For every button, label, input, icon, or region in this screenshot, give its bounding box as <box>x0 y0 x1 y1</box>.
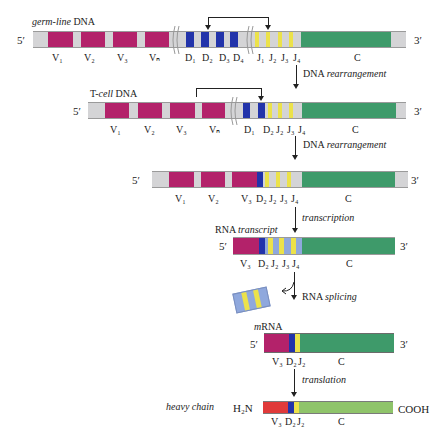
heavy-chain-bar <box>263 401 393 414</box>
step2-caption: DNA rearrangement <box>303 139 386 150</box>
label-v3: V₃ <box>240 258 251 269</box>
label-j4: J₄ <box>292 258 299 269</box>
j3-segment <box>276 172 280 187</box>
arrow-head-icon <box>292 228 298 233</box>
label-j3: J₃ <box>282 258 289 269</box>
c-segment <box>302 172 395 187</box>
arrow-head-icon <box>291 392 297 397</box>
label-j3: J₃ <box>281 52 288 63</box>
vn-segment <box>202 103 225 118</box>
arrow-head-icon <box>265 25 271 30</box>
v3-segment <box>263 402 288 413</box>
d4-segment <box>230 32 238 47</box>
label-d2: D₂ <box>263 124 274 135</box>
rearranged-5prime: 5′ <box>132 174 140 186</box>
d2-segment <box>257 172 263 187</box>
label-v3: V₃ <box>271 416 282 427</box>
label-c: C <box>338 356 345 367</box>
label-j4: J₄ <box>298 124 305 135</box>
arrow-head-icon <box>205 25 211 30</box>
label-j3: J₃ <box>287 124 294 135</box>
j2-segment <box>268 238 273 254</box>
label-v2: V₂ <box>84 52 95 63</box>
j3-segment <box>278 32 282 47</box>
label-c: C <box>346 258 353 269</box>
label-j4: J₄ <box>291 193 298 204</box>
label-j4: J₄ <box>293 52 300 63</box>
v1-segment <box>169 172 194 187</box>
step5-caption: translation <box>302 374 346 385</box>
step1-caption: DNA rearrangement <box>303 68 386 79</box>
c-segment <box>300 334 394 352</box>
excised-intron-fragment <box>232 287 270 314</box>
protein-n-terminus: H₂N <box>233 402 253 414</box>
j4-segment <box>289 103 293 118</box>
label-j2: J₂ <box>269 52 276 63</box>
c-segment <box>302 238 395 254</box>
recombination-bracket <box>196 88 261 89</box>
step4-caption: RNA splicing <box>302 291 357 302</box>
germline-5prime: 5′ <box>17 34 25 46</box>
step2-arrow <box>295 136 296 156</box>
mrna-3prime: 3′ <box>400 338 408 350</box>
j2-segment <box>266 32 270 47</box>
label-d1: D₁ <box>185 52 196 63</box>
label-d2: D₂ <box>286 356 297 367</box>
arrow-head-icon <box>293 84 299 89</box>
j4-segment <box>253 289 262 308</box>
label-v3: V₃ <box>176 124 187 135</box>
label-vn: Vₙ <box>149 52 160 63</box>
j4-segment <box>291 238 296 254</box>
label-v2: V₂ <box>144 124 155 135</box>
label-c: C <box>345 193 352 204</box>
c-segment <box>301 32 391 47</box>
protein-c-terminus: COOH <box>398 403 429 415</box>
recombination-bracket <box>208 17 268 18</box>
rna-5prime: 5′ <box>219 240 227 252</box>
label-j2: J₂ <box>298 356 305 367</box>
germline-dna-bar <box>33 31 406 48</box>
vn-segment <box>145 32 169 47</box>
label-v1: V₁ <box>110 124 121 135</box>
j3-segment <box>241 292 250 311</box>
label-vn: Vₙ <box>209 124 220 135</box>
mrna-5prime: 5′ <box>250 338 258 350</box>
tcell-3prime: 3′ <box>414 105 422 117</box>
label-v3: V₃ <box>117 52 128 63</box>
rearranged-3prime: 3′ <box>411 174 419 186</box>
mrna-title: mRNA <box>254 321 282 332</box>
j4-segment <box>287 172 291 187</box>
label-d2: D₂ <box>285 416 296 427</box>
c-segment <box>299 402 393 413</box>
label-c: C <box>352 124 359 135</box>
v2-segment <box>138 103 162 118</box>
rna-3prime: 3′ <box>400 240 408 252</box>
j2-segment <box>265 172 269 187</box>
rna-transcript-bar <box>233 237 395 255</box>
label-j2: J₂ <box>276 124 283 135</box>
v3-segment <box>232 172 257 187</box>
label-v1: V₁ <box>52 52 63 63</box>
v1-segment <box>48 32 73 47</box>
label-v2: V₂ <box>208 193 219 204</box>
germline-3prime: 3′ <box>414 34 422 46</box>
label-v3: V₃ <box>241 193 252 204</box>
break-mark-icon <box>244 26 256 54</box>
break-mark-icon <box>170 26 182 54</box>
v2-segment <box>81 32 105 47</box>
d2-segment <box>201 32 209 47</box>
v2-segment <box>201 172 225 187</box>
label-c: C <box>354 52 361 63</box>
label-d3: D₃ <box>219 52 230 63</box>
label-j2: J₂ <box>297 416 304 427</box>
step5-arrow <box>294 369 295 393</box>
v1-segment <box>105 103 129 118</box>
arrow-head-icon <box>258 96 264 101</box>
rna-title: RNA transcript <box>215 224 278 235</box>
rearranged-dna-bar <box>152 171 408 188</box>
j3-segment <box>279 238 284 254</box>
d2-segment <box>258 103 265 118</box>
j2-segment <box>268 103 272 118</box>
label-d4: D₄ <box>233 52 244 63</box>
label-j2: J₂ <box>269 193 276 204</box>
